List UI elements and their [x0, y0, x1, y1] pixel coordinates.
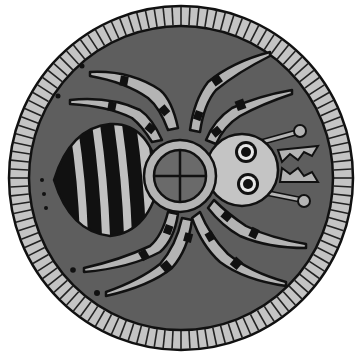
spider-thorax — [144, 140, 216, 212]
spider-badge-illustration — [0, 0, 363, 355]
